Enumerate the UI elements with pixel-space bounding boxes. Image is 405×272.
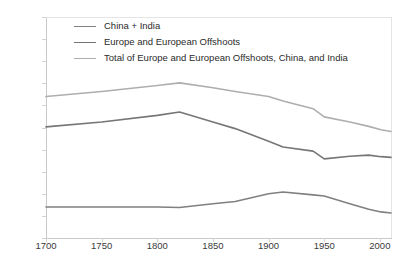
legend-swatch-china-india	[74, 26, 96, 27]
legend-swatch-europe-offshoots	[74, 42, 96, 43]
legend-swatch-total	[74, 58, 96, 59]
legend-label-china-india: China + India	[104, 21, 160, 31]
chart-legend: China + India Europe and European Offsho…	[74, 18, 348, 66]
legend-label-europe-offshoots: Europe and European Offshoots	[104, 37, 240, 47]
chart-container: 100%90%80%70%60%50%40%30%20%10%0% 170017…	[0, 0, 405, 272]
legend-item-europe-offshoots: Europe and European Offshoots	[74, 34, 348, 50]
legend-label-total: Total of Europe and European Offshoots, …	[104, 53, 348, 63]
legend-item-total: Total of Europe and European Offshoots, …	[74, 50, 348, 66]
legend-item-china-india: China + India	[74, 18, 348, 34]
series-line-china-india	[46, 192, 391, 213]
